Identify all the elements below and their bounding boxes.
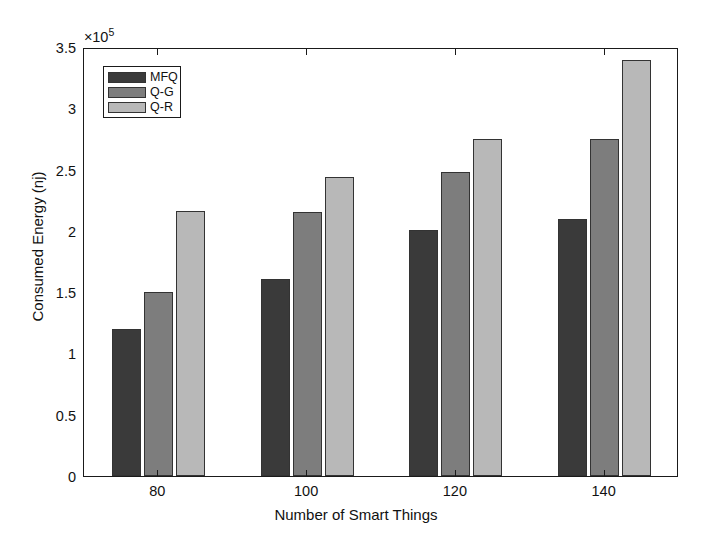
x-axis-tick-mark-top: [455, 48, 456, 55]
x-axis-tick-label: 140: [592, 483, 616, 499]
legend-item-q-r: Q-R: [108, 100, 176, 114]
y-axis-tick-label: 3.5: [38, 40, 76, 56]
bar-q-r-100: [325, 177, 354, 476]
bar-q-g-120: [441, 172, 470, 476]
x-axis-tick-label: 100: [294, 483, 318, 499]
y-axis-exponent: ×105: [84, 26, 114, 45]
bar-q-g-80: [144, 292, 173, 476]
y-axis-exponent-power: 5: [109, 26, 115, 38]
legend-label: Q-G: [150, 86, 174, 99]
y-axis-exponent-base: ×10: [84, 29, 108, 45]
chart-legend: MFQQ-GQ-R: [103, 66, 181, 118]
x-axis-tick-mark: [455, 470, 456, 477]
bar-mfq-140: [558, 219, 587, 476]
bar-mfq-120: [409, 230, 438, 476]
y-axis-tick-label: 3: [38, 101, 76, 117]
bar-mfq-100: [261, 279, 290, 476]
x-axis-tick-label: 120: [443, 483, 467, 499]
x-axis-tick-labels: 80100120140: [83, 483, 678, 505]
bar-q-g-140: [590, 139, 619, 476]
x-axis-tick-mark: [306, 470, 307, 477]
x-axis-tick-mark: [604, 470, 605, 477]
legend-item-q-g: Q-G: [108, 85, 176, 99]
bar-q-g-100: [293, 212, 322, 476]
y-axis-tick-label: 0.5: [38, 408, 76, 424]
legend-label: MFQ: [150, 71, 178, 84]
bar-q-r-140: [622, 60, 651, 476]
x-axis-tick-mark-top: [157, 48, 158, 55]
figure-canvas: ×105 00.511.522.533.5 80100120140 Number…: [0, 0, 712, 536]
x-axis-title: Number of Smart Things: [0, 506, 712, 523]
x-axis-tick-mark: [157, 470, 158, 477]
bar-mfq-80: [112, 329, 141, 476]
bar-q-r-120: [473, 139, 502, 476]
legend-label: Q-R: [150, 101, 173, 114]
legend-swatch-icon: [108, 87, 146, 98]
legend-item-mfq: MFQ: [108, 70, 176, 84]
x-axis-tick-label: 80: [149, 483, 165, 499]
x-axis-tick-mark-top: [306, 48, 307, 55]
legend-swatch-icon: [108, 72, 146, 83]
x-axis-tick-mark-top: [604, 48, 605, 55]
y-axis-tick-label: 0: [38, 469, 76, 485]
y-axis-title: Consumed Energy (nj): [29, 117, 46, 377]
legend-swatch-icon: [108, 102, 146, 113]
bar-q-r-80: [176, 211, 205, 476]
